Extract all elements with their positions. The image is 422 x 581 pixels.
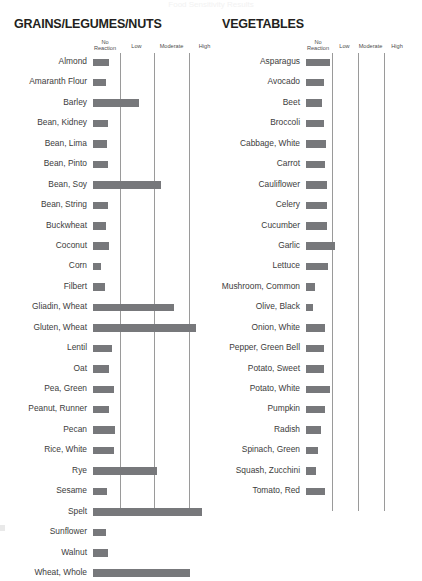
bar-row-label: Buckwheat	[46, 220, 87, 230]
bar-row: Tomato, Red	[306, 482, 418, 502]
bar-value	[93, 569, 190, 577]
bar-value	[306, 283, 315, 291]
panel-vegetables: VEGETABLES No Reaction Low Moderate High…	[211, 9, 422, 531]
bar-value	[306, 222, 327, 230]
header-moderate-label: Moderate	[155, 43, 189, 49]
bar-row: Bean, Soy	[93, 176, 205, 196]
bar-rows-grains: AlmondAmaranth FlourBarleyBean, KidneyBe…	[93, 53, 205, 581]
bar-row-label: Tomato, Red	[253, 485, 300, 495]
bar-row-label: Broccoli	[270, 117, 300, 127]
panel-title-grains: GRAINS/LEGUMES/NUTS	[14, 17, 162, 31]
bar-row: Pumpkin	[306, 400, 418, 420]
bar-value	[306, 345, 324, 353]
bar-value	[306, 426, 321, 434]
bar-value	[93, 263, 101, 271]
bar-row-label: Peanut, Runner	[28, 403, 87, 413]
header-low-label: Low	[332, 43, 357, 49]
bar-value	[306, 202, 327, 210]
bar-value	[306, 263, 328, 271]
bar-row-label: Filbert	[64, 281, 87, 291]
bar-row-label: Garlic	[278, 240, 300, 250]
bar-value	[306, 120, 324, 128]
bar-value	[93, 304, 174, 312]
bar-row-label: Radish	[274, 424, 300, 434]
bar-row-label: Cucumber	[261, 220, 300, 230]
bar-row: Bean, Lima	[93, 135, 205, 155]
bar-value	[306, 365, 324, 373]
header-high-label: High	[384, 43, 410, 49]
bar-row-label: Potato, White	[250, 383, 300, 393]
bar-row-label: Spinach, Green	[242, 444, 300, 454]
bar-row: Garlic	[306, 237, 418, 257]
bar-value	[306, 386, 330, 394]
bar-row: Avocado	[306, 73, 418, 93]
bar-value	[93, 447, 114, 455]
bar-row: Lentil	[93, 339, 205, 359]
bar-value	[306, 447, 318, 455]
bar-row-label: Sunflower	[50, 526, 87, 536]
bar-value	[93, 324, 196, 332]
bar-row: Radish	[306, 421, 418, 441]
bar-row-label: Onion, White	[252, 322, 300, 332]
bar-row: Bean, Kidney	[93, 114, 205, 134]
bar-row-label: Mushroom, Common	[222, 281, 300, 291]
bar-row: Buckwheat	[93, 217, 205, 237]
bar-row: Potato, Sweet	[306, 360, 418, 380]
bar-row-label: Bean, Soy	[48, 179, 87, 189]
bar-row: Cauliflower	[306, 176, 418, 196]
bar-row: Sunflower	[93, 523, 205, 543]
chart-panels: GRAINS/LEGUMES/NUTS No Reaction Low Mode…	[0, 9, 422, 531]
bar-row-label: Pumpkin	[267, 403, 300, 413]
bar-value	[306, 467, 316, 475]
bar-value	[306, 488, 325, 496]
clipped-legend-swatch	[0, 525, 5, 531]
header-moderate-label: Moderate	[358, 43, 383, 49]
bar-value	[93, 406, 109, 414]
bar-value	[93, 283, 105, 291]
bar-row-label: Cauliflower	[259, 179, 300, 189]
bar-row-label: Pepper, Green Bell	[229, 342, 300, 352]
bar-value	[306, 79, 324, 87]
bar-row-label: Lettuce	[273, 260, 300, 270]
bar-value	[93, 242, 109, 250]
bar-rows-vegetables: AsparagusAvocadoBeetBroccoliCabbage, Whi…	[306, 53, 418, 503]
bar-value	[93, 529, 106, 537]
bar-row: Squash, Zucchini	[306, 462, 418, 482]
bar-row: Gliadin, Wheat	[93, 298, 205, 318]
bar-row: Pepper, Green Bell	[306, 339, 418, 359]
bar-row: Rye	[93, 462, 205, 482]
bar-row-label: Gluten, Wheat	[33, 322, 87, 332]
bar-row-label: Amaranth Flour	[29, 76, 87, 86]
bar-row: Peanut, Runner	[93, 400, 205, 420]
bar-row: Mushroom, Common	[306, 278, 418, 298]
clipped-header-text: Food Sensitivity Results	[0, 0, 422, 9]
bar-row: Gluten, Wheat	[93, 319, 205, 339]
header-no-reaction: No Reaction	[91, 39, 119, 53]
bar-row: Oat	[93, 360, 205, 380]
bar-row: Spelt	[93, 503, 205, 523]
bar-row-label: Spelt	[68, 506, 87, 516]
bar-row: Asparagus	[306, 53, 418, 73]
bar-row-label: Avocado	[268, 76, 300, 86]
bar-row: Lettuce	[306, 257, 418, 277]
bar-value	[93, 365, 109, 373]
bar-value	[93, 140, 107, 148]
bar-value	[306, 140, 326, 148]
bar-row: Cabbage, White	[306, 135, 418, 155]
bar-row: Pea, Green	[93, 380, 205, 400]
bar-row-label: Beet	[283, 97, 300, 107]
bar-row: Olive, Black	[306, 298, 418, 318]
bar-row-label: Barley	[63, 97, 87, 107]
bar-row: Spinach, Green	[306, 441, 418, 461]
bar-value	[306, 324, 325, 332]
bar-value	[306, 242, 335, 250]
bar-row: Coconut	[93, 237, 205, 257]
bar-row-label: Pea, Green	[44, 383, 87, 393]
bar-row-label: Rice, White	[44, 444, 87, 454]
bar-row-label: Coconut	[56, 240, 87, 250]
bar-value	[306, 406, 325, 414]
bar-row: Broccoli	[306, 114, 418, 134]
bar-row: Carrot	[306, 155, 418, 175]
bar-row-label: Rye	[72, 465, 87, 475]
bar-row-label: Olive, Black	[256, 301, 300, 311]
